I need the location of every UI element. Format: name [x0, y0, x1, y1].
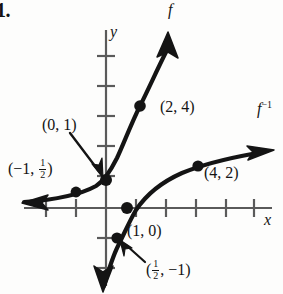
point-label-4-2: (4, 2) — [204, 165, 239, 181]
fraction-numerator: 1 — [39, 158, 46, 169]
problem-number: 1. — [0, 0, 10, 20]
point-marker-neg1-half — [71, 187, 82, 198]
point-label-neg1-half-open: (−1, — [8, 160, 38, 177]
y-axis-label: y — [110, 24, 117, 40]
leader-arrowhead-half-neg1 — [120, 240, 132, 256]
point-label-1-0: (1, 0) — [127, 223, 162, 239]
fraction-one-half-second: 12 — [152, 259, 159, 281]
curve-f-arrowhead — [157, 32, 178, 58]
fraction-numerator-second: 1 — [152, 259, 159, 270]
fraction-denominator-second: 2 — [152, 270, 159, 282]
inverse-function-figure: 1. y x f f−1 (0, 1) (−1, 12) (2, 4) (4, … — [0, 0, 283, 294]
x-axis-label: x — [264, 212, 271, 228]
annotation-arrows — [70, 133, 145, 262]
graph-canvas — [0, 0, 283, 294]
point-label-0-1: (0, 1) — [42, 117, 77, 133]
point-label-half-neg1-mid: , −1) — [160, 261, 190, 278]
point-label-neg1-half-close: ) — [47, 160, 52, 177]
curve-label-f-inverse: f−1 — [257, 100, 272, 117]
curve-label-f: f — [168, 2, 172, 18]
point-label-neg1-half: (−1, 12) — [8, 158, 53, 180]
fraction-one-half: 12 — [39, 158, 46, 180]
curve-f-inverse-tail-arrowhead — [94, 266, 113, 292]
point-marker-2-4 — [134, 100, 146, 112]
fraction-denominator: 2 — [39, 169, 46, 181]
point-label-half-neg1: (12, −1) — [146, 259, 191, 281]
point-marker-1-0 — [121, 202, 133, 214]
point-marker-4-2 — [192, 160, 203, 171]
curve-label-f-inverse-exponent: −1 — [261, 99, 272, 110]
point-label-2-4: (2, 4) — [160, 99, 195, 115]
point-label-half-neg1-open: ( — [146, 261, 151, 278]
